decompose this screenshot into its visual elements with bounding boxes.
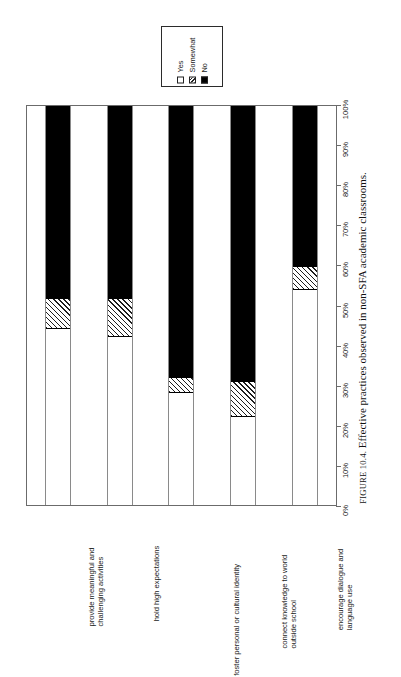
bar-segment-no (108, 106, 132, 298)
bar-group (27, 106, 336, 505)
legend-label-yes: Yes (176, 60, 185, 72)
axis-tick-label: 60% (341, 262, 350, 277)
category-label-line: encourage dialogue and (336, 549, 345, 631)
figure-caption: FIGURE 10.4. Effective practices observe… (356, 172, 368, 504)
legend-label-somewhat: Somewhat (188, 37, 197, 72)
category-label-slot: foster personal or cultural identity (150, 508, 212, 668)
axis-tick-label: 20% (341, 423, 350, 438)
category-label-slot: provide meaningful andchallenging activi… (26, 508, 88, 668)
bar-slot (27, 106, 89, 505)
bar-segment-yes (46, 329, 70, 505)
legend-label-no: No (200, 63, 209, 72)
bar-segment-yes (293, 290, 317, 505)
bar-segment-yes (231, 417, 255, 505)
bar-slot (274, 106, 336, 505)
bar-segment-somewhat (108, 298, 132, 338)
bar-segment-no (169, 106, 193, 377)
bar-slot (89, 106, 151, 505)
value-axis: 0%10%20%30%40%50%60%70%80%90%100% (336, 105, 337, 506)
axis-tick-label: 50% (341, 302, 350, 317)
bar-segment-yes (169, 393, 193, 505)
black-square-icon (201, 76, 208, 83)
hatched-square-icon (189, 76, 196, 83)
white-square-icon (177, 76, 184, 83)
axis-tick-label: 0% (341, 505, 350, 516)
stacked-bar (107, 106, 133, 505)
figure-caption-text: Effective practices observed in non-SFA … (356, 172, 368, 448)
axis-tick-label: 90% (341, 142, 350, 157)
category-axis-labels: provide meaningful andchallenging activi… (26, 508, 336, 668)
bar-slot (151, 106, 213, 505)
bar-segment-somewhat (46, 298, 70, 330)
axis-tick-label: 70% (341, 222, 350, 237)
bar-segment-no (293, 106, 317, 266)
stacked-bar (292, 106, 318, 505)
category-label-slot: encourage dialogue andlanguage use (274, 508, 336, 668)
bar-segment-no (231, 106, 255, 381)
bar-segment-somewhat (231, 381, 255, 417)
legend-entry-somewhat: Somewhat (188, 27, 197, 83)
bar-segment-no (46, 106, 70, 298)
bar-segment-yes (108, 337, 132, 505)
stacked-bar (230, 106, 256, 505)
bar-segment-somewhat (169, 377, 193, 393)
chart-legend: Yes Somewhat No (161, 26, 223, 87)
stacked-bar (45, 106, 71, 505)
bar-slot (212, 106, 274, 505)
axis-tick-label: 30% (341, 383, 350, 398)
legend-entry-no: No (200, 27, 209, 83)
bar-segment-somewhat (293, 266, 317, 290)
legend-entry-yes: Yes (176, 27, 185, 83)
axis-tick-label: 10% (341, 463, 350, 478)
axis-tick-label: 100% (341, 100, 350, 119)
category-label-slot: connect knowledge to worldoutside school (212, 508, 274, 668)
category-label-line: language use (346, 549, 355, 631)
category-label: encourage dialogue andlanguage use (336, 549, 355, 631)
category-label-slot: hold high expectations (88, 508, 150, 668)
axis-tick-label: 80% (341, 182, 350, 197)
stacked-bar (168, 106, 194, 505)
chart-plot-area (26, 105, 336, 506)
axis-tick-label: 40% (341, 342, 350, 357)
figure-number: FIGURE 10.4. (358, 451, 368, 504)
